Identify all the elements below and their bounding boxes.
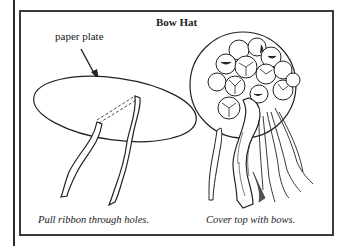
- page-margin-rule: [13, 0, 15, 246]
- left-panel-caption: Pull ribbon through holes.: [38, 214, 149, 225]
- right-panel-caption: Cover top with bows.: [206, 214, 295, 225]
- paper-plate-label: paper plate: [55, 30, 104, 42]
- illustration-art: [21, 12, 332, 234]
- arrow-icon: [81, 49, 99, 80]
- bow-hat-figure: Bow Hat paper plate Pull ribbon through …: [19, 10, 334, 236]
- thin-ribbon-left: [209, 128, 222, 200]
- paper-plate-illustration: [29, 49, 200, 205]
- figure-title: Bow Hat: [21, 16, 332, 28]
- bow-hat-illustration: [190, 32, 313, 208]
